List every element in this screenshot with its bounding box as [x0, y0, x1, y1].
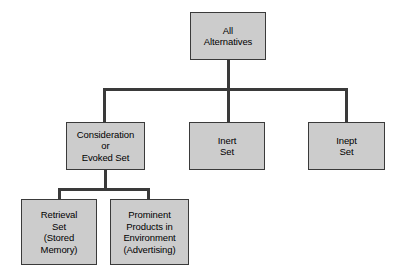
connector-main-horizontal-bus: [103, 88, 347, 91]
diagram-canvas: All Alternatives Consideration or Evoked…: [0, 0, 411, 274]
connector-drop-to-inept-set: [345, 88, 348, 123]
node-consideration-or-evoked-set-label: Consideration or Evoked Set: [75, 129, 136, 164]
node-retrieval-set-label: Retrieval Set (Stored Memory): [39, 209, 80, 255]
node-prominent-products-in-environment-label: Prominent Products in Environment (Adver…: [121, 209, 177, 255]
connector-drop-to-inert-set: [227, 88, 230, 123]
node-all-alternatives[interactable]: All Alternatives: [190, 12, 266, 60]
node-all-alternatives-label: All Alternatives: [202, 25, 254, 48]
node-inert-set[interactable]: Inert Set: [189, 122, 265, 170]
node-retrieval-set[interactable]: Retrieval Set (Stored Memory): [21, 199, 97, 265]
node-inept-set[interactable]: Inept Set: [308, 122, 385, 170]
connector-root-stem: [227, 60, 230, 89]
connector-sub-horizontal-bus: [58, 188, 150, 191]
connector-consideration-stem: [104, 170, 107, 190]
connector-drop-to-consideration-set: [103, 88, 106, 123]
node-consideration-or-evoked-set[interactable]: Consideration or Evoked Set: [66, 122, 145, 170]
node-inert-set-label: Inert Set: [216, 135, 239, 158]
node-prominent-products-in-environment[interactable]: Prominent Products in Environment (Adver…: [110, 199, 189, 265]
node-inept-set-label: Inept Set: [334, 135, 359, 158]
